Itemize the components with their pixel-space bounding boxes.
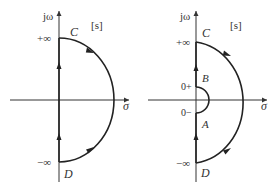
point-c-label: C: [202, 26, 211, 40]
point-c-label: C: [70, 25, 79, 39]
tick-zero-plus: 0+: [181, 81, 192, 92]
tick-plus-infinity: +∞: [37, 32, 51, 44]
plane-label: [s]: [91, 19, 103, 31]
tick-zero-minus: 0−: [181, 107, 192, 118]
imag-axis-label: jω: [42, 10, 53, 22]
tick-minus-infinity: −∞: [176, 157, 190, 169]
diagram-canvas: jω σ [s] +∞ −∞ C D jω σ [s] +∞ −∞ 0+ 0− …: [0, 0, 277, 192]
right-diagram: jω σ [s] +∞ −∞ 0+ 0− C D B A: [148, 10, 268, 182]
point-d-label: D: [63, 167, 73, 181]
arc-arrow-icon: [223, 51, 231, 57]
point-b-label: B: [202, 72, 209, 84]
up-arrow-icon: [57, 133, 62, 140]
real-axis-label: σ: [261, 99, 268, 113]
contour-arc: [196, 42, 243, 163]
up-arrow-icon: [57, 62, 62, 69]
real-axis-label: σ: [123, 99, 130, 113]
up-arrow-icon: [194, 64, 199, 71]
tick-plus-infinity: +∞: [176, 36, 190, 48]
imag-axis-label: jω: [179, 10, 190, 22]
tick-minus-infinity: −∞: [37, 156, 51, 168]
up-arrow-icon: [194, 133, 199, 140]
plane-label: [s]: [230, 19, 242, 31]
point-d-label: D: [200, 166, 210, 180]
left-diagram: jω σ [s] +∞ −∞ C D: [10, 10, 130, 182]
point-a-label: A: [201, 118, 209, 130]
